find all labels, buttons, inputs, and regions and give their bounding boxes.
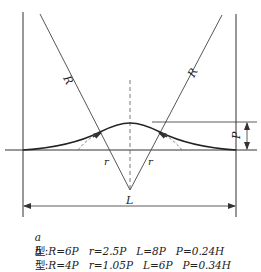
legend-R-b: R=4P: [48, 259, 78, 271]
left-small-r-label: r: [104, 156, 110, 167]
legend-type-b: b: [35, 245, 42, 257]
bell-curve-profile: [23, 123, 236, 150]
apex-l-label: L: [125, 194, 133, 207]
legend-L-b: L=6P: [143, 259, 173, 271]
left-r-line: [40, 14, 130, 190]
right-small-r-label: r: [148, 156, 154, 167]
left-r-label: R: [60, 73, 76, 87]
legend-row-b: b 型:R=4P r=1.05P L=6P P=0.34H: [28, 233, 231, 272]
legend-P-b: P=0.34H: [183, 259, 231, 271]
height-p-label: P: [230, 131, 243, 140]
right-r-label: R: [185, 66, 201, 80]
legend-r-b: r=1.05P: [89, 259, 133, 271]
right-r-line: [130, 15, 222, 190]
legend-type-suffix-b: 型: [35, 259, 45, 271]
